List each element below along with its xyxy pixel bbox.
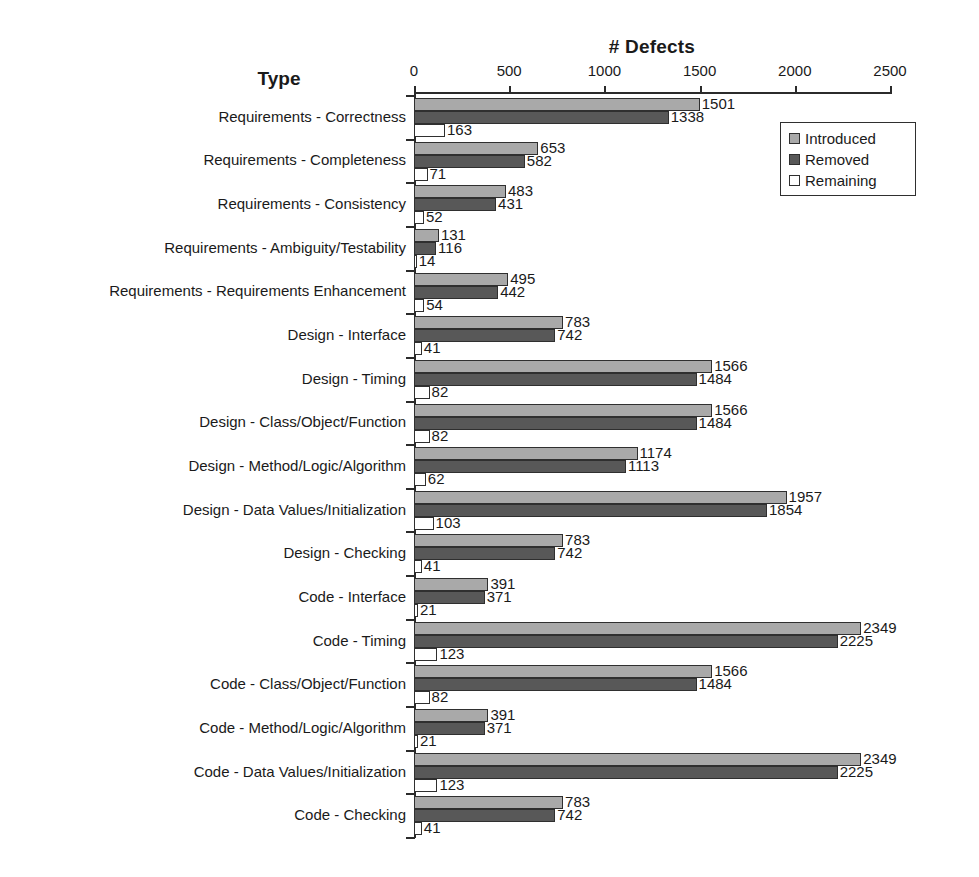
bar-removed[interactable] [414,460,626,473]
bar-remaining[interactable] [414,604,418,617]
category-label-column: Requirements - CorrectnessRequirements -… [0,95,412,837]
y-axis-tick-mark [406,357,415,359]
x-axis-tick-label: 2500 [873,62,906,79]
bar-remaining[interactable] [414,168,428,181]
bar-value-label: 54 [426,298,443,311]
bar-remaining[interactable] [414,430,430,443]
legend-label-remaining: Remaining [805,172,877,189]
bar-introduced[interactable] [414,753,861,766]
bar-introduced[interactable] [414,665,712,678]
category-label: Design - Data Values/Initialization [0,501,412,518]
bar-group: 78374241 [414,793,890,837]
y-axis-tick-mark [406,226,415,228]
bar-value-label: 1338 [671,110,704,123]
bar-value-label: 1501 [702,97,735,110]
bar-introduced[interactable] [414,404,712,417]
bar-introduced[interactable] [414,578,488,591]
category-label: Design - Timing [0,370,412,387]
x-axis-tick-mark [414,86,416,94]
bar-removed[interactable] [414,635,838,648]
bar-remaining[interactable] [414,124,445,137]
bar-remaining[interactable] [414,211,424,224]
bar-remaining[interactable] [414,473,426,486]
y-axis-tick-mark [406,444,415,446]
y-axis-tick-mark [406,750,415,752]
x-axis-tick-label: 500 [497,62,522,79]
bar-removed[interactable] [414,678,697,691]
legend-label-removed: Removed [805,151,869,168]
bar-value-label: 1484 [699,677,732,690]
bar-remaining[interactable] [414,342,422,355]
bar-introduced[interactable] [414,534,563,547]
bar-introduced[interactable] [414,447,638,460]
bar-introduced[interactable] [414,316,563,329]
bar-value-label: 41 [424,341,441,354]
category-label: Requirements - Correctness [0,108,412,125]
bar-remaining[interactable] [414,386,430,399]
x-axis-tick-label: 1000 [588,62,621,79]
bar-value-label: 2225 [840,765,873,778]
category-label: Code - Class/Object/Function [0,675,412,692]
bar-remaining[interactable] [414,779,437,792]
x-axis-tick-mark [795,86,797,94]
bar-remaining[interactable] [414,735,418,748]
bar-group: 49544254 [414,270,890,314]
bar-introduced[interactable] [414,796,563,809]
y-axis-tick-mark [406,531,415,533]
bar-group: 78374241 [414,531,890,575]
bar-value-label: 21 [420,603,437,616]
bar-value-label: 103 [436,516,461,529]
bar-introduced[interactable] [414,709,488,722]
x-axis-tick-label: 0 [410,62,418,79]
bar-value-label: 123 [439,778,464,791]
x-axis-tick-label: 2000 [778,62,811,79]
bar-value-label: 742 [557,546,582,559]
bar-removed[interactable] [414,766,838,779]
y-axis-tick-mark [406,139,415,141]
bar-introduced[interactable] [414,185,506,198]
bar-group: 1566148482 [414,662,890,706]
y-axis-tick-mark [406,488,415,490]
bar-value-label: 442 [500,285,525,298]
bar-remaining[interactable] [414,822,422,835]
bar-remaining[interactable] [414,648,437,661]
legend-swatch-removed-icon [789,154,800,165]
bar-group: 39137121 [414,706,890,750]
bar-remaining[interactable] [414,255,417,268]
bar-remaining[interactable] [414,691,430,704]
bar-removed[interactable] [414,417,697,430]
x-axis-tick-mark [890,86,892,94]
bar-remaining[interactable] [414,517,434,530]
category-label: Code - Method/Logic/Algorithm [0,719,412,736]
x-axis-tick-mark [700,86,702,94]
category-label: Code - Timing [0,632,412,649]
bar-value-label: 742 [557,328,582,341]
bar-group: 13111614 [414,226,890,270]
bar-introduced[interactable] [414,229,439,242]
bar-value-label: 14 [419,254,436,267]
category-label: Design - Method/Logic/Algorithm [0,457,412,474]
y-axis-tick-mark [406,182,415,184]
x-axis-tick-mark [604,86,606,94]
bar-removed[interactable] [414,504,767,517]
bar-value-label: 123 [439,647,464,660]
y-axis-tick-mark [406,662,415,664]
bar-remaining[interactable] [414,299,424,312]
bar-introduced[interactable] [414,622,861,635]
category-label: Code - Checking [0,806,412,823]
bar-value-label: 1854 [769,503,802,516]
bar-introduced[interactable] [414,360,712,373]
bar-introduced[interactable] [414,273,508,286]
bar-remaining[interactable] [414,560,422,573]
bar-group: 39137121 [414,575,890,619]
legend-swatch-remaining-icon [789,175,800,186]
bar-introduced[interactable] [414,491,787,504]
legend-swatch-introduced-icon [789,133,800,144]
bar-value-label: 41 [424,559,441,572]
bar-introduced[interactable] [414,98,700,111]
bar-removed[interactable] [414,373,697,386]
chart-axis-title: # Defects [414,36,890,58]
bar-group: 1566148482 [414,357,890,401]
bar-value-label: 742 [557,808,582,821]
bar-introduced[interactable] [414,142,538,155]
